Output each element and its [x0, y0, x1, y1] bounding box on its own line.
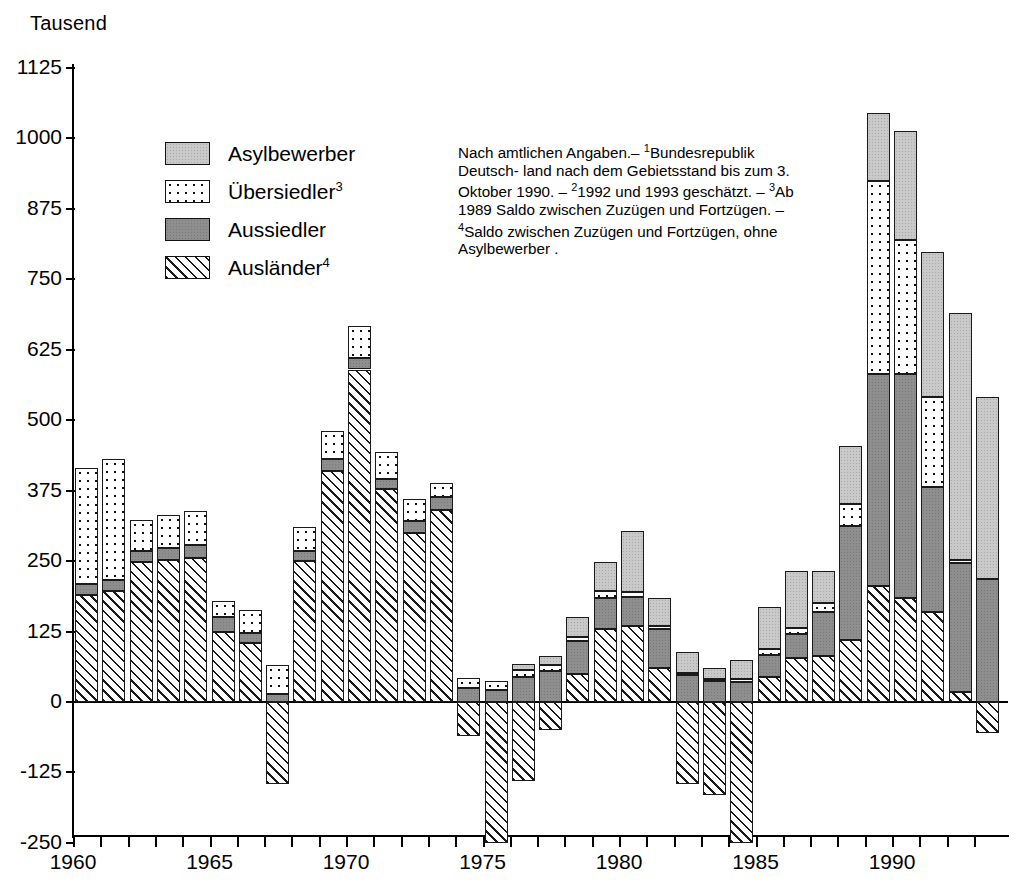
bar-segment-auss — [102, 580, 125, 591]
bar-segment-asyl — [676, 652, 699, 673]
bar-segment-asyl — [976, 397, 999, 578]
legend-label-superscript: 4 — [323, 255, 330, 270]
bar-segment-ausl — [785, 658, 808, 702]
note-line-4b: Saldo zwischen Zuzügen — [464, 223, 633, 240]
bar-segment-asyl — [812, 571, 835, 603]
bar-group — [730, 0, 753, 886]
bar-segment-auss — [949, 563, 972, 693]
bar-segment-ausl — [184, 558, 207, 702]
y-axis-label: 375 — [0, 478, 62, 502]
bar-segment-uber — [75, 468, 98, 584]
x-axis-label: 1985 — [716, 850, 796, 874]
bar-segment-asyl — [758, 607, 781, 649]
bar-group — [648, 0, 671, 886]
bar-group — [293, 0, 316, 886]
bar-group — [375, 0, 398, 886]
bar-group — [321, 0, 344, 886]
bar-segment-uber — [730, 679, 753, 681]
bar-segment-auss — [321, 459, 344, 471]
bar-group — [839, 0, 862, 886]
bar-segment-uber — [539, 665, 562, 671]
bar-group — [921, 0, 944, 886]
bar-segment-asyl — [867, 113, 890, 181]
x-axis-label: 1980 — [579, 850, 659, 874]
bar-segment-uber — [239, 610, 262, 633]
y-axis-tick — [66, 208, 75, 210]
bar-group — [184, 0, 207, 886]
bar-segment-asyl — [539, 656, 562, 665]
bar-segment-ausl — [812, 656, 835, 702]
bar-segment-ausl — [730, 702, 753, 843]
bar-segment-auss — [730, 682, 753, 702]
chart-legend: AsylbewerberÜbersiedler3AussiedlerAuslän… — [165, 140, 355, 292]
bar-segment-uber — [703, 679, 726, 681]
bar-segment-auss — [266, 694, 289, 702]
legend-swatch-auss — [165, 218, 210, 241]
bar-segment-auss — [785, 634, 808, 658]
bar-segment-uber — [921, 397, 944, 487]
bar-group — [75, 0, 98, 886]
bar-segment-uber — [839, 504, 862, 526]
bar-segment-auss — [184, 545, 207, 559]
bar-segment-ausl — [921, 612, 944, 702]
bar-segment-ausl — [293, 561, 316, 702]
y-axis-tick — [66, 771, 75, 773]
x-axis-label: 1960 — [33, 850, 113, 874]
bar-segment-uber — [266, 665, 289, 693]
x-axis-label: 1975 — [443, 850, 523, 874]
bar-segment-auss — [758, 655, 781, 677]
y-axis-tick — [66, 419, 75, 421]
bar-segment-ausl — [375, 489, 398, 702]
bar-segment-asyl — [621, 531, 644, 592]
bar-segment-uber — [184, 511, 207, 545]
bar-segment-uber — [348, 326, 371, 359]
bar-group — [212, 0, 235, 886]
bar-group — [403, 0, 426, 886]
bar-segment-auss — [839, 526, 862, 640]
bar-segment-uber — [867, 181, 890, 374]
legend-item: Ausländer4 — [165, 254, 355, 281]
legend-swatch-asyl — [165, 142, 210, 165]
bar-segment-ausl — [512, 702, 535, 781]
bar-group — [676, 0, 699, 886]
bar-segment-ausl — [157, 560, 180, 702]
bar-segment-ausl — [758, 677, 781, 702]
bar-segment-auss — [703, 681, 726, 702]
bar-segment-auss — [676, 675, 699, 702]
bar-group — [430, 0, 453, 886]
bar-segment-auss — [457, 688, 480, 702]
bar-segment-ausl — [703, 702, 726, 795]
y-axis-label: 500 — [0, 407, 62, 431]
bar-segment-uber — [485, 681, 508, 689]
bar-group — [703, 0, 726, 886]
bar-segment-ausl — [976, 702, 999, 733]
bar-segment-auss — [512, 677, 535, 702]
bar-group — [812, 0, 835, 886]
bar-group — [976, 0, 999, 886]
bar-segment-ausl — [539, 702, 562, 730]
bar-group — [867, 0, 890, 886]
bar-segment-ausl — [321, 471, 344, 702]
y-axis-label: 875 — [0, 196, 62, 220]
legend-item: Aussiedler — [165, 216, 355, 243]
bar-segment-ausl — [621, 626, 644, 702]
bar-segment-uber — [102, 459, 125, 580]
bar-segment-asyl — [839, 446, 862, 504]
bar-segment-auss — [239, 633, 262, 643]
y-axis-label: 250 — [0, 548, 62, 572]
bar-segment-asyl — [594, 562, 617, 591]
x-axis-label: 1970 — [306, 850, 386, 874]
bar-segment-auss — [75, 584, 98, 595]
bar-segment-uber — [457, 678, 480, 688]
bar-segment-asyl — [566, 617, 589, 636]
bar-group — [594, 0, 617, 886]
bar-segment-ausl — [430, 510, 453, 702]
bar-segment-auss — [648, 629, 671, 668]
bar-segment-ausl — [676, 702, 699, 784]
bar-group — [785, 0, 808, 886]
bar-segment-ausl — [239, 643, 262, 702]
bar-segment-auss — [867, 374, 890, 586]
y-axis-tick — [66, 560, 75, 562]
bar-group — [485, 0, 508, 886]
y-axis-label: 125 — [0, 619, 62, 643]
